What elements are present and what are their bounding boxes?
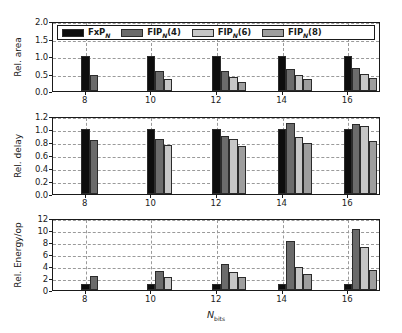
y-tick-label: 0 [43, 286, 48, 296]
gridline-horizontal [53, 268, 379, 269]
bar-rel-energy-10-s2 [164, 277, 172, 290]
legend-label: FIPN(6) [218, 27, 251, 39]
legend-label: FIPN(4) [147, 27, 180, 39]
gridline-vertical [217, 220, 218, 290]
bar-rel-energy-8-s0 [81, 284, 89, 290]
legend-label: FxPN [88, 27, 110, 39]
y-tick-mark [49, 219, 52, 220]
legend-swatch-icon [62, 29, 84, 37]
legend-item-fip4: FIPN(4) [121, 27, 180, 39]
bar-rel-energy-16-s3 [369, 270, 377, 290]
panel-rel-energy-y-axis-label: Rel. Energy/op [13, 222, 23, 287]
bar-rel-energy-12-s0 [212, 284, 220, 290]
x-tick-mark [150, 291, 151, 294]
x-tick-label: 10 [145, 294, 156, 304]
y-tick-mark [49, 231, 52, 232]
x-tick-label: 8 [82, 294, 87, 304]
y-tick-label: 2 [43, 274, 48, 284]
y-tick-mark [49, 255, 52, 256]
x-tick-label: 14 [276, 294, 287, 304]
bar-rel-energy-16-s0 [344, 284, 352, 290]
y-tick-mark [49, 267, 52, 268]
gridline-vertical [348, 220, 349, 290]
gridline-horizontal [53, 280, 379, 281]
gridline-horizontal [53, 220, 379, 221]
y-tick-label: 8 [43, 238, 48, 248]
bar-rel-energy-16-s1 [352, 229, 360, 290]
legend-item-fip8: FIPN(8) [262, 27, 321, 39]
x-axis-label: Nbits [207, 309, 225, 322]
bar-rel-energy-12-s3 [238, 277, 246, 290]
bar-rel-energy-14-s1 [286, 241, 294, 290]
y-tick-label: 10 [38, 226, 48, 236]
x-tick-label: 16 [342, 294, 353, 304]
figure-bar-chart-panels: 0.00.51.01.52.0Rel. area8101214160.00.20… [0, 0, 402, 333]
bar-rel-energy-10-s1 [155, 271, 163, 290]
gridline-horizontal [53, 244, 379, 245]
gridline-horizontal [53, 256, 379, 257]
gridline-horizontal [53, 232, 379, 233]
bar-rel-energy-12-s2 [229, 272, 237, 290]
x-tick-mark [347, 291, 348, 294]
gridline-vertical [283, 220, 284, 290]
bar-rel-energy-12-s1 [221, 264, 229, 290]
x-tick-mark [85, 291, 86, 294]
legend-item-fxp: FxPN [62, 27, 110, 39]
x-tick-label: 12 [211, 294, 222, 304]
bar-rel-energy-16-s2 [360, 247, 368, 290]
bar-rel-energy-10-s0 [147, 284, 155, 290]
y-tick-mark [49, 279, 52, 280]
gridline-vertical [86, 220, 87, 290]
panel-rel-energy: 024681012Rel. Energy/op810121416 [0, 0, 402, 333]
y-tick-label: 6 [43, 250, 48, 260]
y-tick-mark [49, 243, 52, 244]
panel-rel-energy-plot-area [52, 219, 380, 291]
bar-rel-energy-14-s3 [303, 274, 311, 290]
legend-item-fip6: FIPN(6) [192, 27, 251, 39]
chart-legend: FxPNFIPN(4)FIPN(6)FIPN(8) [57, 25, 375, 40]
bar-rel-energy-14-s0 [278, 284, 286, 290]
x-tick-mark [282, 291, 283, 294]
x-tick-mark [216, 291, 217, 294]
legend-swatch-icon [192, 29, 214, 37]
bar-rel-energy-14-s2 [295, 267, 303, 290]
legend-label: FIPN(8) [288, 27, 321, 39]
gridline-vertical [151, 220, 152, 290]
legend-swatch-icon [121, 29, 143, 37]
y-tick-label: 4 [43, 262, 48, 272]
y-tick-label: 12 [38, 214, 48, 224]
y-tick-mark [49, 291, 52, 292]
bar-rel-energy-8-s1 [90, 276, 98, 290]
legend-swatch-icon [262, 29, 284, 37]
